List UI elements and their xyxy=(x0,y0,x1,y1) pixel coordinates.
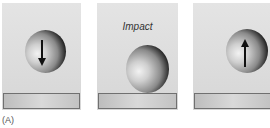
figure-label: (A) xyxy=(2,115,14,125)
compressed-ball xyxy=(126,45,169,93)
floor-surface xyxy=(194,93,270,109)
panel-after-impact xyxy=(193,3,270,110)
up-arrow-icon xyxy=(241,39,249,67)
panel-before-impact xyxy=(2,3,81,110)
floor-surface xyxy=(98,93,177,109)
floor-surface xyxy=(3,93,80,109)
impact-caption: Impact xyxy=(97,21,178,32)
down-arrow-icon xyxy=(38,40,46,66)
panel-impact: Impact xyxy=(97,3,178,110)
